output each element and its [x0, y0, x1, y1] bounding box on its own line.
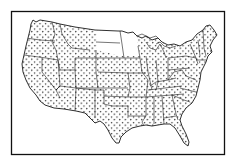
map-figure [0, 0, 238, 167]
